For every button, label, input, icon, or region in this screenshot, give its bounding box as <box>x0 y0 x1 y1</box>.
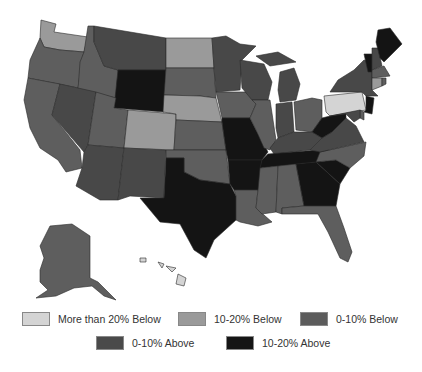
legend-label: 0-10% Above <box>132 337 194 349</box>
state-fl <box>282 206 352 262</box>
state-nm <box>118 148 166 200</box>
state-hi <box>140 258 186 286</box>
legend-label: 10-20% Above <box>262 337 330 349</box>
legend-swatch <box>96 336 124 350</box>
state-ak <box>36 224 116 300</box>
state-ar <box>228 160 262 190</box>
state-sd <box>164 68 216 98</box>
legend-item-10-20-below: 10-20% Below <box>178 312 282 326</box>
state-ks <box>174 120 226 150</box>
state-nd <box>166 38 214 68</box>
state-ms <box>256 166 278 214</box>
legend-item-0-10-above: 0-10% Above <box>96 336 194 350</box>
state-mt <box>94 26 166 70</box>
legend-swatch <box>22 312 50 326</box>
state-nj <box>364 96 374 114</box>
state-me <box>376 28 402 62</box>
legend-swatch <box>300 312 328 326</box>
state-az <box>76 145 124 200</box>
legend-item-0-10-below: 0-10% Below <box>300 312 398 326</box>
state-de <box>360 110 364 120</box>
legend-swatch <box>178 312 206 326</box>
state-ct <box>372 78 382 90</box>
state-ri <box>382 78 386 86</box>
state-co <box>124 110 176 150</box>
legend-item-10-20-above: 10-20% Above <box>226 336 330 350</box>
state-wa <box>40 20 88 52</box>
us-map <box>0 0 422 310</box>
legend-label: 10-20% Below <box>214 313 282 325</box>
legend-label: More than 20% Below <box>58 313 161 325</box>
legend-swatch <box>226 336 254 350</box>
state-wy <box>114 70 166 112</box>
legend-label: 0-10% Below <box>336 313 398 325</box>
state-in <box>276 102 294 138</box>
legend-item-more-than-20-below: More than 20% Below <box>22 312 161 326</box>
